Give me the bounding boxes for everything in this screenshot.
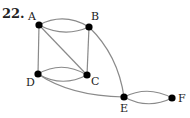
edge-D-C — [38, 67, 87, 75]
node-D — [34, 70, 41, 77]
edge-D-C — [38, 74, 87, 81]
edge-B-C — [87, 27, 89, 75]
edge-A-B — [39, 25, 89, 32]
edge-A-B — [39, 19, 89, 27]
node-label-A: A — [27, 10, 37, 23]
node-label-C: C — [91, 75, 99, 88]
problem-number: 22. — [2, 6, 25, 21]
edge-A-D — [38, 25, 39, 74]
edge-E-F — [124, 91, 172, 98]
node-C — [83, 71, 90, 78]
node-label-D: D — [26, 76, 35, 89]
node-B — [85, 23, 92, 30]
graph-edges — [38, 19, 172, 104]
graph-nodes — [34, 21, 175, 101]
edge-E-F — [124, 97, 172, 104]
node-label-F: F — [178, 92, 186, 105]
node-A — [35, 21, 42, 28]
graph-diagram: 22. ABCDEF — [0, 0, 190, 118]
node-E — [120, 93, 127, 100]
node-label-B: B — [91, 10, 99, 23]
node-F — [168, 94, 175, 101]
node-label-E: E — [120, 102, 128, 115]
graph-labels: ABCDEF — [26, 10, 186, 115]
